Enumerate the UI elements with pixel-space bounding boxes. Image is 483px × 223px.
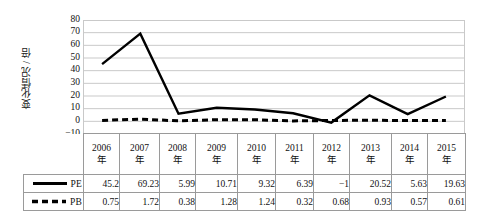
table-row: PE45.269.235.9910.719.326.39−120.525.631… — [24, 175, 466, 193]
y-axis-tick-label: 70 — [52, 27, 80, 37]
table-cell: 1.28 — [196, 193, 238, 211]
y-axis-tick-label: 10 — [52, 103, 80, 113]
y-axis-title-text: 变化情况 / 倍 — [22, 47, 32, 109]
header-year-suffix: 年 — [120, 154, 159, 167]
y-axis-tick-label: 30 — [52, 78, 80, 88]
table-cell: 0.68 — [314, 193, 350, 211]
table-header-row: 2006年2007年2008年2009年2010年2011年2012年2013年… — [24, 134, 466, 175]
table-cell: 0.93 — [350, 193, 392, 211]
table-cell: 19.63 — [428, 175, 466, 193]
table-cell: 1.72 — [120, 193, 160, 211]
table-cell: 5.99 — [160, 175, 196, 193]
table-cell: 5.63 — [392, 175, 428, 193]
table-cell: 0.75 — [84, 193, 120, 211]
data-table: 2006年2007年2008年2009年2010年2011年2012年2013年… — [23, 133, 466, 211]
header-year: 2013 — [350, 142, 391, 155]
series-line-pe — [102, 33, 446, 122]
column-header-2011: 2011年 — [276, 134, 314, 175]
header-year-suffix: 年 — [428, 154, 465, 167]
chart-figure: 变化情况 / 倍 80706050403020100−10 2006年2007年… — [0, 0, 483, 223]
table-cell: 20.52 — [350, 175, 392, 193]
table-cell: 9.32 — [238, 175, 276, 193]
table-row: PB0.751.720.381.281.240.320.680.930.570.… — [24, 193, 466, 211]
header-year: 2009 — [196, 142, 237, 155]
line-chart-svg — [83, 20, 465, 134]
header-year: 2011 — [276, 142, 313, 155]
column-header-2015: 2015年 — [428, 134, 466, 175]
y-axis-tick-label: 0 — [52, 116, 80, 126]
dashed-line-icon — [31, 194, 67, 209]
header-year-suffix: 年 — [238, 154, 275, 167]
header-year-suffix: 年 — [84, 154, 119, 167]
header-year: 2007 — [120, 142, 159, 155]
column-header-2012: 2012年 — [314, 134, 350, 175]
column-header-2008: 2008年 — [160, 134, 196, 175]
table-cell: −1 — [314, 175, 350, 193]
solid-line-icon — [32, 176, 68, 191]
header-year-suffix: 年 — [392, 154, 427, 167]
dashed-line-icon — [31, 194, 67, 209]
header-year: 2015 — [428, 142, 465, 155]
series-line-pb — [102, 119, 446, 121]
header-year-suffix: 年 — [350, 154, 391, 167]
legend-cell-pe[interactable]: PE — [24, 175, 84, 193]
column-header-2009: 2009年 — [196, 134, 238, 175]
table-cell: 0.61 — [428, 193, 466, 211]
header-year-suffix: 年 — [314, 154, 349, 167]
legend-cell-pb[interactable]: PB — [24, 193, 84, 211]
header-year-suffix: 年 — [276, 154, 313, 167]
plot-area — [83, 20, 465, 134]
plot-border — [84, 20, 465, 133]
table-cell: 6.39 — [276, 175, 314, 193]
table-corner-cell — [24, 134, 84, 175]
header-year: 2012 — [314, 142, 349, 155]
header-year: 2014 — [392, 142, 427, 155]
header-year: 2008 — [160, 142, 195, 155]
y-axis-tick-labels: 80706050403020100−10 — [52, 14, 80, 140]
y-axis-title: 变化情况 / 倍 — [18, 22, 36, 134]
y-axis-tick-label: 40 — [52, 65, 80, 75]
data-table-container: 2006年2007年2008年2009年2010年2011年2012年2013年… — [23, 133, 465, 211]
y-axis-tick-label: 50 — [52, 53, 80, 63]
table-cell: 69.23 — [120, 175, 160, 193]
y-axis-tick-label: 60 — [52, 40, 80, 50]
table-cell: 0.38 — [160, 193, 196, 211]
column-header-2014: 2014年 — [392, 134, 428, 175]
header-year-suffix: 年 — [160, 154, 195, 167]
table-cell: 10.71 — [196, 175, 238, 193]
header-year: 2006 — [84, 142, 119, 155]
table-cell: 0.32 — [276, 193, 314, 211]
table-cell: 1.24 — [238, 193, 276, 211]
legend-label: PB — [70, 197, 83, 207]
header-year-suffix: 年 — [196, 154, 237, 167]
y-axis-tick-label: 80 — [52, 15, 80, 25]
gridlines — [83, 20, 465, 134]
column-header-2013: 2013年 — [350, 134, 392, 175]
column-header-2007: 2007年 — [120, 134, 160, 175]
series-lines — [102, 33, 446, 122]
legend-label: PE — [71, 179, 84, 189]
y-axis-tick-label: 20 — [52, 91, 80, 101]
table-cell: 0.57 — [392, 193, 428, 211]
table-cell: 45.2 — [84, 175, 120, 193]
column-header-2010: 2010年 — [238, 134, 276, 175]
column-header-2006: 2006年 — [84, 134, 120, 175]
header-year: 2010 — [238, 142, 275, 155]
solid-line-icon — [32, 176, 68, 191]
